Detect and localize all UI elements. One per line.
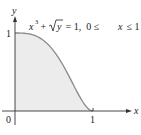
area-chart: y x 0 1 1 x 3 + y = 1, 0 ≤ x ≤ 1 <box>0 0 141 135</box>
y-axis-arrow-icon <box>13 16 17 22</box>
svg-text:≤ 1: ≤ 1 <box>124 21 140 32</box>
svg-text:+: + <box>38 21 49 32</box>
svg-text:x: x <box>117 21 123 32</box>
y-axis-label: y <box>11 5 17 16</box>
x-axis-label: x <box>133 105 139 116</box>
origin-label: 0 <box>6 114 11 125</box>
x-axis-arrow-icon <box>126 109 132 113</box>
svg-text:y: y <box>56 21 62 32</box>
equation-annotation: x 3 + y = 1, 0 ≤ x ≤ 1 <box>28 18 140 32</box>
y-tick-label-1: 1 <box>6 28 11 39</box>
svg-text:= 1, 0 ≤: = 1, 0 ≤ <box>63 21 102 32</box>
x-tick-label-1: 1 <box>90 114 95 125</box>
svg-text:x: x <box>28 21 34 32</box>
